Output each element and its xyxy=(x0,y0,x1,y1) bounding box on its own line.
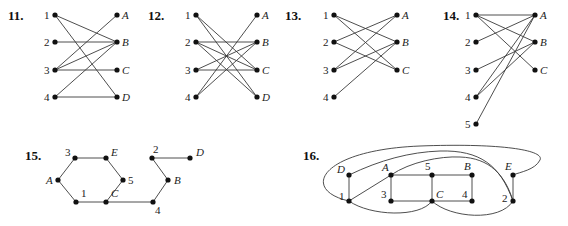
vertex-C xyxy=(114,67,119,72)
vertex-label-C: C xyxy=(436,188,444,200)
figure-12-bipartite-graph: 12.1234ABCD xyxy=(148,8,270,103)
vertex-label-4: 4 xyxy=(155,204,161,216)
vertex-label-A: A xyxy=(381,161,389,173)
vertex-label-1: 1 xyxy=(339,190,345,202)
vertex-label-4: 4 xyxy=(465,91,471,103)
vertex-label-4: 4 xyxy=(323,91,329,103)
vertex-4 xyxy=(473,94,478,99)
vertex-label-C: C xyxy=(402,64,410,76)
vertex-A xyxy=(394,12,399,17)
vertex-B xyxy=(394,39,399,44)
edge-B-2 xyxy=(152,158,168,180)
vertex-label-1: 1 xyxy=(44,9,50,21)
figure-number-label: 14. xyxy=(443,8,459,23)
vertex-B xyxy=(165,177,170,182)
vertex-1 xyxy=(52,12,57,17)
vertex-2 xyxy=(510,198,515,203)
vertex-label-5: 5 xyxy=(128,174,134,186)
vertex-C xyxy=(429,198,434,203)
figure-number-label: 15. xyxy=(25,148,41,163)
vertex-2 xyxy=(149,155,154,160)
vertex-E xyxy=(510,172,515,177)
figure-14-bipartite-graph: 14.12345ABC xyxy=(443,8,548,130)
figure-11-bipartite-graph: 11.1234ABCD xyxy=(8,8,130,103)
vertex-label-D: D xyxy=(195,146,204,158)
vertex-A xyxy=(254,12,259,17)
vertex-label-B: B xyxy=(540,36,547,48)
edge-4-B xyxy=(55,42,117,97)
edge-1-C xyxy=(196,15,257,70)
vertex-5 xyxy=(473,121,478,126)
vertex-A xyxy=(388,172,393,177)
vertex-label-5: 5 xyxy=(425,160,431,172)
vertex-2 xyxy=(473,39,478,44)
vertex-4 xyxy=(193,94,198,99)
vertex-1 xyxy=(193,12,198,17)
vertex-2 xyxy=(193,39,198,44)
vertex-label-1: 1 xyxy=(323,9,329,21)
vertex-label-3: 3 xyxy=(185,64,191,76)
vertex-B xyxy=(114,39,119,44)
figure-16-graph: 16.12345DABEC xyxy=(303,145,540,215)
vertex-label-1: 1 xyxy=(185,9,191,21)
vertex-E xyxy=(103,155,108,160)
vertex-label-3: 3 xyxy=(44,64,50,76)
edge-4-B xyxy=(153,180,168,202)
vertex-label-2: 2 xyxy=(502,192,508,204)
vertex-label-2: 2 xyxy=(153,143,159,155)
vertex-1 xyxy=(331,12,336,17)
vertex-label-B: B xyxy=(174,174,181,186)
vertex-B xyxy=(532,39,537,44)
vertex-label-1: 1 xyxy=(465,9,471,21)
vertex-1 xyxy=(73,199,78,204)
vertex-4 xyxy=(469,198,474,203)
vertex-1 xyxy=(346,198,351,203)
vertex-label-E: E xyxy=(504,160,512,172)
curved-edge-A-2 xyxy=(391,157,513,201)
vertex-label-4: 4 xyxy=(44,91,50,103)
vertex-2 xyxy=(331,39,336,44)
vertex-3 xyxy=(331,67,336,72)
vertex-label-A: A xyxy=(45,174,53,186)
vertex-label-B: B xyxy=(402,36,409,48)
edge-3-A xyxy=(58,158,75,180)
vertex-5 xyxy=(429,172,434,177)
vertex-label-A: A xyxy=(121,9,129,21)
vertex-D xyxy=(114,94,119,99)
vertex-label-2: 2 xyxy=(185,36,191,48)
vertex-3 xyxy=(473,67,478,72)
vertex-C xyxy=(103,199,108,204)
edge-4-A xyxy=(476,15,535,97)
vertex-label-C: C xyxy=(540,64,548,76)
vertex-label-A: A xyxy=(261,9,269,21)
vertex-label-A: A xyxy=(539,9,547,21)
vertex-A xyxy=(55,177,60,182)
vertex-label-4: 4 xyxy=(462,188,468,200)
figure-number-label: 12. xyxy=(148,8,164,23)
vertex-A xyxy=(114,12,119,17)
edge-3-A xyxy=(55,15,117,70)
edge-1-C xyxy=(476,15,535,70)
vertex-5 xyxy=(120,177,125,182)
vertex-label-C: C xyxy=(262,64,270,76)
edge-5-A xyxy=(476,15,535,124)
vertex-label-3: 3 xyxy=(381,188,387,200)
vertex-label-E: E xyxy=(110,146,118,158)
vertex-2 xyxy=(52,39,57,44)
vertex-label-B: B xyxy=(464,160,471,172)
vertex-C xyxy=(532,67,537,72)
vertex-B xyxy=(469,172,474,177)
vertex-label-2: 2 xyxy=(465,36,471,48)
vertex-C xyxy=(254,67,259,72)
edge-4-B xyxy=(334,42,397,97)
edge-A-1 xyxy=(58,180,76,202)
figure-number-label: 13. xyxy=(285,8,301,23)
edge-E-5 xyxy=(106,158,123,180)
vertex-label-4: 4 xyxy=(185,91,191,103)
vertex-D xyxy=(187,155,192,160)
vertex-label-3: 3 xyxy=(323,64,329,76)
vertex-A xyxy=(532,12,537,17)
vertex-B xyxy=(254,39,259,44)
vertex-label-A: A xyxy=(401,9,409,21)
vertex-label-C: C xyxy=(122,64,130,76)
